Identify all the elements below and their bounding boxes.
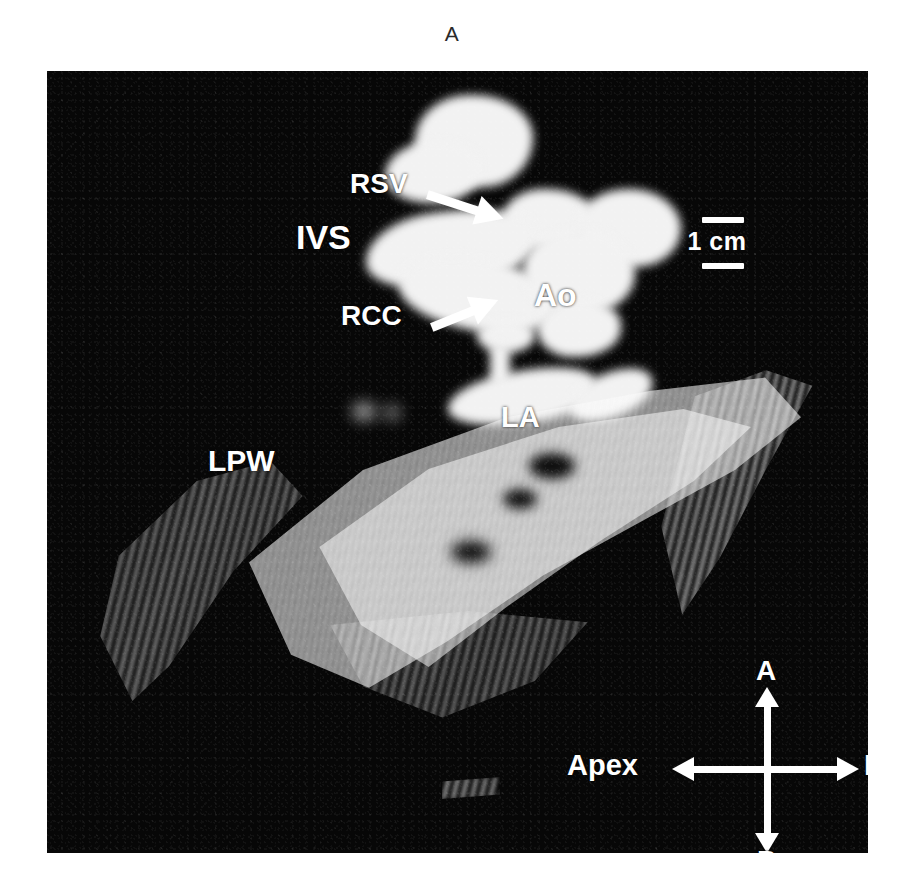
compass-label-apex: Apex: [567, 751, 638, 780]
scale-bar: 1 cm: [658, 213, 776, 279]
panel-letter: A: [0, 22, 904, 46]
compass-horizontal-shaft: [694, 766, 839, 773]
label-la: LA: [501, 403, 540, 432]
echo-dropout-patch-a: [529, 453, 575, 479]
scale-bar-rule-top: [702, 217, 744, 223]
label-ao: Ao: [534, 279, 577, 311]
echo-speckle-mid-right: [385, 407, 399, 418]
compass-arrow-right-icon: [837, 757, 859, 781]
compass-arrow-left-icon: [672, 757, 694, 781]
compass-arrow-up-icon: [755, 687, 779, 707]
scale-bar-rule-bottom: [702, 263, 744, 269]
label-rcc: RCC: [341, 302, 402, 330]
ultrasound-scan-image: 1 cm RSV IVS RCC Ao LA LPW A P Ap: [47, 71, 868, 853]
echo-speckle-cluster-lower: [442, 777, 500, 799]
scale-bar-label: 1 cm: [658, 227, 776, 256]
compass-label-posterior: P: [757, 847, 776, 853]
echo-speckle-mid-left: [353, 404, 375, 419]
echo-dropout-patch-b: [503, 489, 537, 509]
figure-panel: A: [0, 0, 904, 895]
echo-sector-bottom-fringe: [317, 611, 647, 751]
compass-label-anterior: A: [756, 657, 776, 685]
label-rsv: RSV: [350, 170, 408, 198]
label-ivs: IVS: [296, 220, 351, 254]
echo-dropout-patch-c: [451, 541, 491, 563]
orientation-compass: A P Apex Base: [607, 661, 868, 853]
compass-label-base: Base: [864, 751, 868, 780]
label-lpw: LPW: [208, 446, 275, 476]
